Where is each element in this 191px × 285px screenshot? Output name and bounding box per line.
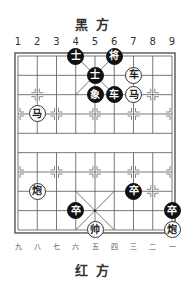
red-piece[interactable]: 炮 <box>164 221 181 238</box>
black-piece[interactable]: 卒 <box>125 183 142 200</box>
column-label: 七 <box>50 241 64 251</box>
column-label: 五 <box>88 241 102 251</box>
red-piece[interactable]: 车 <box>125 67 142 84</box>
black-piece[interactable]: 士 <box>67 48 84 65</box>
black-piece[interactable]: 车 <box>106 86 123 103</box>
column-label: 二 <box>146 241 160 251</box>
black-piece[interactable]: 士 <box>87 67 104 84</box>
column-label: 八 <box>30 241 44 251</box>
black-piece[interactable]: 象 <box>87 86 104 103</box>
column-label: 一 <box>165 241 179 251</box>
black-piece[interactable]: 卒 <box>164 202 181 219</box>
bottom-column-labels: 九八七六五四三二一 <box>0 241 191 255</box>
red-piece[interactable]: 炮 <box>29 183 46 200</box>
red-piece[interactable]: 帅 <box>87 221 104 238</box>
black-piece[interactable]: 将 <box>106 48 123 65</box>
column-label: 四 <box>107 241 121 251</box>
column-label: 三 <box>127 241 141 251</box>
column-label: 九 <box>11 241 25 251</box>
column-label: 六 <box>69 241 83 251</box>
red-side-title: 红方 <box>0 260 191 279</box>
